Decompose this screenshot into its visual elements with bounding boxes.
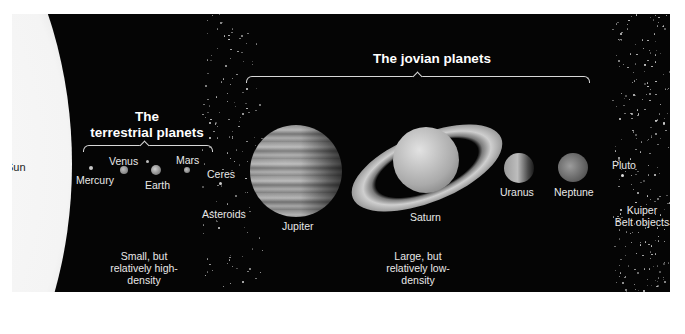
star-dot (249, 211, 250, 212)
star-dot (236, 268, 237, 269)
star-dot (620, 272, 621, 273)
star-dot (647, 86, 648, 87)
star-dot (651, 66, 652, 67)
star-dot (664, 241, 665, 242)
kuiper-label: Kuiper Belt objects (610, 204, 670, 228)
star-dot (627, 24, 628, 25)
star-dot (625, 255, 626, 256)
star-dot (217, 126, 218, 127)
star-dot (640, 242, 641, 243)
star-dot (612, 29, 613, 30)
star-dot (242, 151, 243, 152)
star-dot (631, 16, 632, 17)
star-dot (219, 14, 220, 15)
star-dot (658, 236, 659, 237)
star-dot (657, 265, 658, 266)
star-dot (203, 233, 204, 234)
neptune-planet (558, 153, 588, 182)
star-dot (633, 72, 634, 73)
kuiper-label-line1: Kuiper (610, 204, 670, 216)
star-dot (230, 84, 231, 85)
star-dot (232, 266, 233, 267)
star-dot (647, 140, 648, 141)
star-dot (260, 272, 261, 273)
star-dot (205, 275, 206, 276)
star-dot (254, 137, 255, 138)
sun-label: Sun (12, 161, 26, 173)
star-dot (643, 48, 644, 49)
star-dot (669, 71, 670, 72)
star-dot (660, 138, 661, 139)
star-dot (621, 139, 622, 140)
mars-label: Mars (176, 154, 199, 166)
star-dot (619, 276, 620, 277)
star-dot (631, 175, 632, 176)
star-dot (217, 137, 218, 138)
star-dot (247, 271, 248, 272)
star-dot (217, 185, 218, 186)
star-dot (642, 39, 643, 40)
star-dot (640, 244, 641, 245)
star-dot (632, 232, 633, 233)
star-dot (621, 40, 622, 41)
star-dot (638, 232, 639, 233)
star-dot (622, 282, 623, 283)
star-dot (228, 39, 229, 40)
star-dot (246, 43, 247, 44)
star-dot (655, 94, 656, 95)
star-dot (242, 113, 243, 114)
star-dot (242, 92, 243, 93)
earth-label: Earth (145, 179, 170, 191)
star-dot (646, 94, 647, 95)
star-dot (665, 89, 666, 90)
star-dot (621, 32, 622, 33)
star-dot (207, 271, 208, 272)
star-dot (207, 73, 208, 74)
star-dot (227, 203, 228, 204)
star-dot (245, 103, 246, 104)
star-dot (667, 89, 668, 90)
star-dot (243, 61, 244, 62)
star-dot (227, 93, 228, 94)
star-dot (660, 104, 661, 105)
star-dot (614, 246, 615, 247)
star-dot (620, 259, 621, 260)
star-dot (651, 245, 652, 246)
star-dot (205, 85, 206, 86)
star-dot (641, 141, 642, 142)
star-dot (664, 281, 665, 282)
star-dot (227, 152, 228, 153)
star-dot (256, 43, 257, 44)
star-dot (624, 277, 625, 278)
star-dot (212, 270, 213, 271)
star-dot (232, 137, 233, 138)
star-dot (631, 118, 632, 119)
star-dot (218, 227, 219, 228)
jovian-description-line1: Large, but (378, 250, 458, 262)
star-dot (663, 263, 664, 264)
star-dot (252, 64, 253, 65)
star-dot (625, 289, 626, 290)
star-dot (631, 184, 632, 185)
star-dot (644, 268, 645, 269)
star-dot (255, 278, 256, 279)
star-dot (616, 23, 617, 24)
star-dot (207, 33, 208, 34)
star-dot (619, 66, 620, 67)
star-dot (241, 35, 242, 36)
star-dot (649, 100, 650, 101)
star-dot (657, 25, 658, 26)
star-dot (621, 93, 622, 94)
star-dot (203, 104, 204, 105)
mercury-planet (89, 166, 93, 170)
star-dot (202, 186, 203, 187)
star-dot (648, 139, 649, 140)
star-dot (657, 198, 658, 199)
star-dot (655, 280, 656, 281)
star-dot (650, 251, 651, 252)
star-dot (239, 164, 240, 165)
star-dot (230, 49, 231, 50)
asteroids-label: Asteroids (202, 208, 246, 220)
star-dot (246, 141, 247, 142)
star-dot (207, 59, 208, 60)
